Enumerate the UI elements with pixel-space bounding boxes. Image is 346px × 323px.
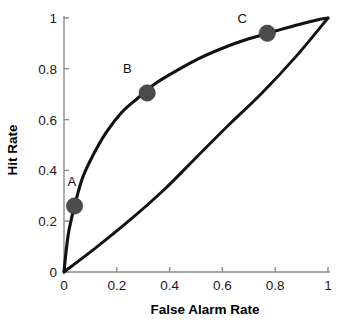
data-point-marker-b xyxy=(139,85,155,101)
axes-group xyxy=(64,16,330,272)
roc-curve-path xyxy=(64,18,328,272)
data-point-label-a: A xyxy=(68,174,77,189)
roc-plot-svg: 00.20.40.60.81 00.20.40.60.81 ABC False … xyxy=(0,0,346,323)
data-point-marker-c xyxy=(259,25,275,41)
y-axis-title: Hit Rate xyxy=(5,124,20,175)
x-tick-label-3: 0.6 xyxy=(213,278,232,293)
x-tick-label-5: 1 xyxy=(324,278,332,293)
data-point-markers xyxy=(66,25,275,214)
chance-line-path xyxy=(64,18,328,272)
x-axis-tick-labels: 00.20.40.60.81 xyxy=(60,278,332,293)
y-axis-tick-labels: 00.20.40.60.81 xyxy=(38,11,57,280)
data-point-label-b: B xyxy=(123,61,132,76)
data-point-label-c: C xyxy=(238,11,247,26)
roc-chart-figure: 00.20.40.60.81 00.20.40.60.81 ABC False … xyxy=(0,0,346,323)
y-tick-label-2: 0.4 xyxy=(38,163,57,178)
x-axis-title: False Alarm Rate xyxy=(150,302,260,317)
x-tick-label-2: 0.4 xyxy=(160,278,179,293)
x-tick-label-1: 0.2 xyxy=(107,278,126,293)
data-point-labels: ABC xyxy=(68,11,247,189)
y-tick-label-3: 0.6 xyxy=(38,113,57,128)
y-tick-label-1: 0.2 xyxy=(38,214,57,229)
y-tick-label-4: 0.8 xyxy=(38,62,57,77)
x-axis-ticks xyxy=(64,267,328,272)
x-tick-label-0: 0 xyxy=(60,278,68,293)
y-tick-label-0: 0 xyxy=(49,265,57,280)
y-tick-label-5: 1 xyxy=(49,11,57,26)
data-point-marker-a xyxy=(66,198,82,214)
x-tick-label-4: 0.8 xyxy=(266,278,285,293)
series-group xyxy=(64,18,328,272)
